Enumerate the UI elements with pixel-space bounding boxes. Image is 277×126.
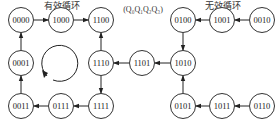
state-label: 1000 bbox=[53, 15, 70, 25]
state-node-1100: 1100 bbox=[89, 8, 114, 33]
state-node-1011: 1011 bbox=[210, 94, 235, 119]
state-node-1111: 1111 bbox=[89, 94, 114, 119]
state-label: 0001 bbox=[13, 58, 30, 68]
state-node-0110: 0110 bbox=[250, 94, 275, 119]
state-node-0100: 0100 bbox=[171, 8, 196, 33]
state-label: 0000 bbox=[13, 15, 30, 25]
state-label: 1010 bbox=[175, 58, 192, 68]
state-label: 1011 bbox=[214, 101, 231, 111]
cycle-direction-icon bbox=[42, 45, 78, 81]
state-node-1000: 1000 bbox=[49, 8, 74, 33]
state-label: 0011 bbox=[13, 101, 30, 111]
state-node-1001: 1001 bbox=[210, 8, 235, 33]
state-node-0111: 0111 bbox=[49, 94, 74, 119]
state-node-0010: 0010 bbox=[250, 8, 275, 33]
state-node-0011: 0011 bbox=[9, 94, 34, 119]
state-label: 0111 bbox=[53, 101, 69, 111]
state-label: 0010 bbox=[254, 15, 271, 25]
state-node-1010: 1010 bbox=[171, 51, 196, 76]
state-label: 0100 bbox=[175, 15, 192, 25]
state-node-0000: 0000 bbox=[9, 8, 34, 33]
state-label: 1101 bbox=[134, 58, 151, 68]
state-label: 0101 bbox=[175, 101, 192, 111]
state-node-1101: 1101 bbox=[130, 51, 155, 76]
state-label: 1100 bbox=[93, 15, 110, 25]
state-label: 1001 bbox=[214, 15, 231, 25]
state-order-label: (Q₀Q₁Q₂Q₃) bbox=[123, 5, 163, 14]
state-label: 0110 bbox=[254, 101, 271, 111]
state-label: 1111 bbox=[93, 101, 109, 111]
state-node-0101: 0101 bbox=[171, 94, 196, 119]
state-node-0001: 0001 bbox=[9, 51, 34, 76]
state-node-1110: 1110 bbox=[89, 51, 114, 76]
state-label: 1110 bbox=[93, 58, 109, 68]
state-diagram: 有效循环 (Q₀Q₁Q₂Q₃) 无效循环 0000 1000 110 bbox=[0, 0, 277, 126]
